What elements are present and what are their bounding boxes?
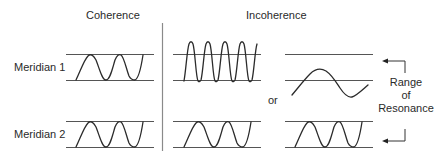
wave-coherence-meridian2 (76, 122, 143, 147)
wave-coherence-meridian1 (76, 55, 143, 80)
arrow-head-upper (382, 59, 388, 64)
row2-reference-lines (66, 122, 373, 148)
wave-incoherence-meridian1-high-frequency (184, 42, 257, 82)
row-label-meridian1: Meridian 1 (14, 61, 65, 73)
range-label-line1: Range (378, 76, 434, 89)
wave-incoherence-meridian1-low-frequency (292, 69, 368, 97)
header-incoherence: Incoherence (246, 9, 307, 21)
wave-incoherence-meridian2-a (184, 122, 251, 147)
header-coherence: Coherence (86, 9, 140, 21)
range-of-resonance-label: Range of Resonance (378, 76, 434, 115)
wave-incoherence-meridian2-b (295, 122, 362, 147)
connector-or: or (268, 94, 278, 106)
row-label-meridian2: Meridian 2 (14, 128, 65, 140)
range-label-line2: of (378, 89, 434, 102)
arrow-head-lower (382, 139, 388, 144)
range-label-line3: Resonance (378, 102, 434, 115)
resonance-diagram (0, 0, 442, 161)
